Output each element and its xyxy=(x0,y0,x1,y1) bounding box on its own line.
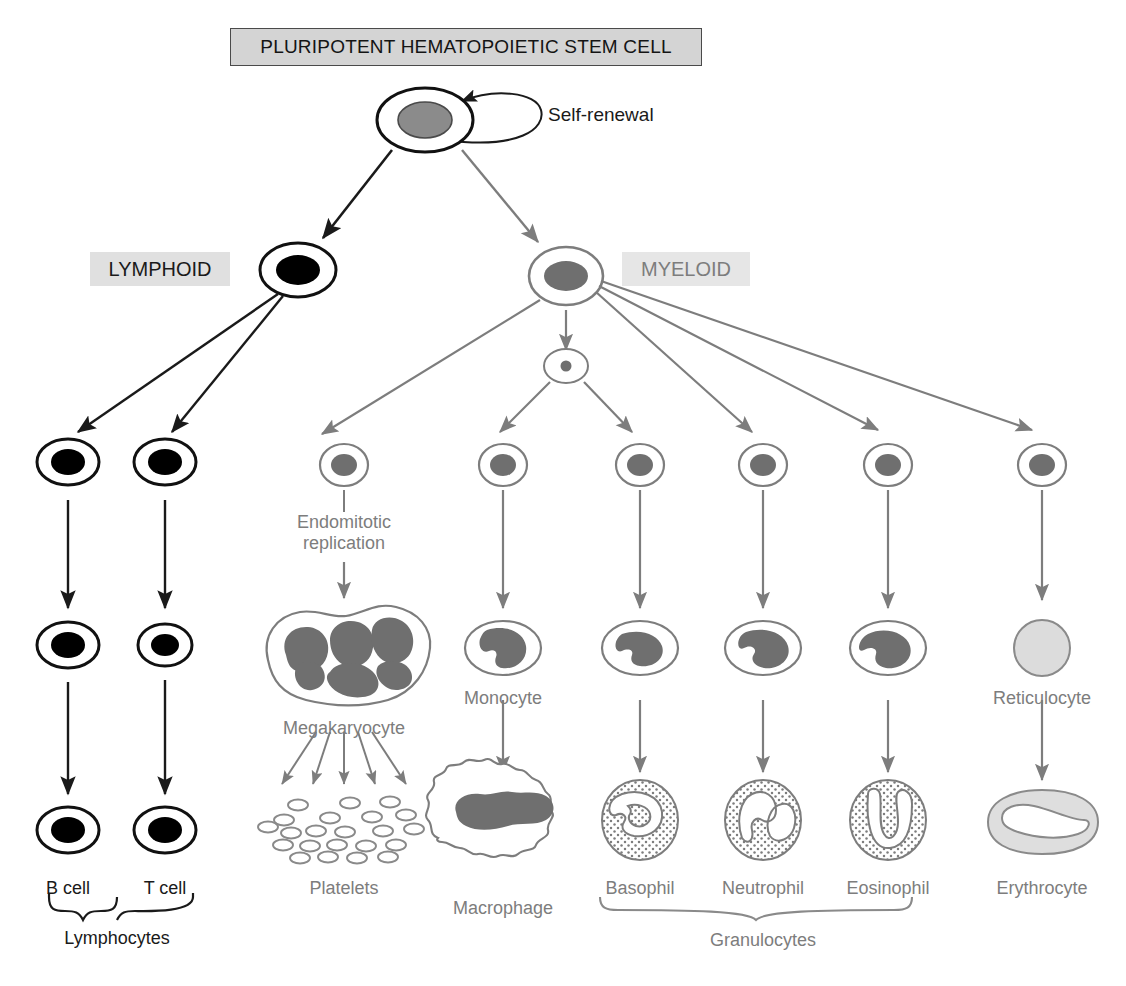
neutrophil-cell xyxy=(725,780,801,860)
hematopoiesis-diagram: PLURIPOTENT HEMATOPOIETIC STEM CELL Self… xyxy=(0,0,1126,986)
basophil-cell xyxy=(602,780,678,860)
label-platelets: Platelets xyxy=(309,878,378,899)
self-renewal-label: Self-renewal xyxy=(548,104,654,126)
t-lymphoblast xyxy=(134,439,196,485)
label-eosinophil: Eosinophil xyxy=(846,878,929,899)
progenitor-eosinophilic xyxy=(864,444,912,486)
label-basophil: Basophil xyxy=(605,878,674,899)
b-lymphoblast xyxy=(37,439,99,485)
endomitotic-line2: replication xyxy=(297,533,391,554)
monocyte-cell xyxy=(465,621,541,675)
label-erythrocyte: Erythrocyte xyxy=(996,878,1087,899)
endomitotic-replication-label: Endomitotic replication xyxy=(297,512,391,553)
progenitor-basophilic xyxy=(616,444,664,486)
lymphoid-to-t xyxy=(172,296,283,432)
stem-cell xyxy=(377,88,473,152)
t-prolymphocyte xyxy=(138,624,192,666)
page-title: PLURIPOTENT HEMATOPOIETIC STEM CELL xyxy=(230,28,702,66)
neutrophil-myelocyte xyxy=(725,621,801,675)
label-monocyte: Monocyte xyxy=(464,688,542,709)
platelet-cluster xyxy=(258,797,424,864)
label-lymphocytes: Lymphocytes xyxy=(64,928,169,949)
label-macrophage: Macrophage xyxy=(453,898,553,919)
label-reticulocyte: Reticulocyte xyxy=(993,688,1091,709)
megakaryocyte-cell xyxy=(267,606,431,706)
myeloid-to-megakaryocyte-progenitor xyxy=(322,300,540,434)
label-granulocytes: Granulocytes xyxy=(710,930,816,951)
platelet-release-arrows xyxy=(282,732,406,784)
reticulocyte-cell xyxy=(1014,620,1070,676)
b-cell xyxy=(37,807,99,853)
progenitor-neutrophilic xyxy=(739,444,787,486)
branch-to-lymphoid xyxy=(323,150,392,238)
progenitor-megakaryocytic xyxy=(320,444,368,486)
myeloid-to-neutrophil-progenitor xyxy=(596,292,752,432)
cfu-to-basophil-progenitor xyxy=(584,382,632,432)
diagram-canvas xyxy=(0,0,1126,986)
erythrocyte-cell xyxy=(988,790,1098,854)
branch-to-myeloid xyxy=(462,150,538,242)
t-cell xyxy=(134,807,196,853)
label-t-cell: T cell xyxy=(144,878,187,899)
lineage-label-myeloid: MYELOID xyxy=(622,252,750,286)
cfu-cell xyxy=(544,349,588,383)
lineage-label-lymphoid: LYMPHOID xyxy=(90,252,230,286)
label-neutrophil: Neutrophil xyxy=(722,878,804,899)
endomitotic-line1: Endomitotic xyxy=(297,512,391,533)
basophil-myelocyte xyxy=(602,621,678,675)
progenitor-erythroid xyxy=(1018,444,1066,486)
lymphocytes-brace xyxy=(49,897,117,920)
lymphoid-stem-cell xyxy=(260,243,336,297)
cfu-to-monocyte-progenitor xyxy=(500,382,550,432)
macrophage-cell xyxy=(426,759,553,857)
b-prolymphocyte xyxy=(37,622,99,668)
myeloid-to-eosinophil-progenitor xyxy=(599,286,878,430)
eosinophil-myelocyte xyxy=(850,621,926,675)
eosinophil-cell xyxy=(850,780,926,860)
label-b-cell: B cell xyxy=(46,878,90,899)
granulocytes-brace xyxy=(600,897,912,920)
progenitor-monocytic xyxy=(479,444,527,486)
lymphoid-to-b xyxy=(78,294,278,432)
label-megakaryocyte: Megakaryocyte xyxy=(283,718,405,739)
myeloid-stem-cell xyxy=(529,247,603,305)
